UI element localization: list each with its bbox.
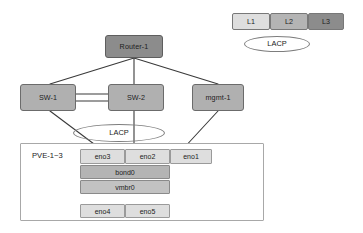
node-sw-2-label: SW-2 xyxy=(127,94,145,101)
legend-lacp-indicator: LACP xyxy=(244,36,310,52)
legend-layer-l3-label: L3 xyxy=(322,18,330,25)
interface-eno1-label: eno1 xyxy=(183,153,199,160)
edge-router-to-mgmt xyxy=(134,58,218,84)
legend-layer-l1-label: L1 xyxy=(247,18,255,25)
legend-layer-l2-label: L2 xyxy=(285,18,293,25)
node-sw-2[interactable]: SW-2 xyxy=(108,84,164,111)
node-sw-1-label: SW-1 xyxy=(39,94,57,101)
bond0-interface[interactable]: bond0 xyxy=(80,165,170,179)
edge-router-to-sw1 xyxy=(50,58,134,84)
legend-layer-l3: L3 xyxy=(308,13,344,30)
node-router-1[interactable]: Router-1 xyxy=(105,35,163,58)
interface-eno3[interactable]: eno3 xyxy=(80,149,125,164)
interface-eno2[interactable]: eno2 xyxy=(125,149,170,164)
vmbr0-bridge[interactable]: vmbr0 xyxy=(80,180,170,194)
bond0-label: bond0 xyxy=(115,169,134,176)
network-diagram: Router-1 SW-1 SW-2 mgmt-1 PVE-1~3 eno3 e… xyxy=(0,0,363,233)
node-router-1-label: Router-1 xyxy=(120,43,149,50)
node-sw-1[interactable]: SW-1 xyxy=(20,84,76,111)
legend-lacp-label: LACP xyxy=(267,40,286,47)
node-mgmt-1-label: mgmt-1 xyxy=(206,94,231,101)
pve-cluster-label: PVE-1~3 xyxy=(32,152,63,160)
interface-eno1[interactable]: eno1 xyxy=(170,149,212,164)
interface-eno5[interactable]: eno5 xyxy=(125,204,170,218)
interface-eno4[interactable]: eno4 xyxy=(80,204,125,218)
interface-eno5-label: eno5 xyxy=(140,208,156,215)
legend-layer-l1: L1 xyxy=(232,13,270,30)
interface-eno2-label: eno2 xyxy=(140,153,156,160)
legend-layer-l2: L2 xyxy=(270,13,308,30)
interface-eno3-label: eno3 xyxy=(95,153,111,160)
vmbr0-label: vmbr0 xyxy=(115,184,134,191)
node-mgmt-1[interactable]: mgmt-1 xyxy=(192,84,244,111)
interface-eno4-label: eno4 xyxy=(95,208,111,215)
lacp-group-label: LACP xyxy=(109,129,128,136)
lacp-group-indicator: LACP xyxy=(73,124,165,142)
